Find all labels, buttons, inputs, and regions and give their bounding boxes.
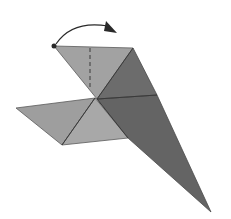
diagram-canvas <box>0 0 231 219</box>
tail-face <box>97 95 211 212</box>
fold-arrow-icon <box>56 25 108 44</box>
pivot-point-icon <box>52 44 57 49</box>
origami-diagram: Origami folding step Fold the top-left p… <box>0 0 231 219</box>
arrowhead-icon <box>104 21 117 33</box>
